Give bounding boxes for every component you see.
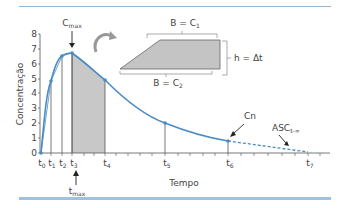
svg-text:2: 2 [31, 118, 37, 128]
trapezoid-shape [120, 40, 220, 69]
svg-text:t4: t4 [103, 158, 111, 169]
extrapolated-tail [228, 141, 308, 152]
svg-text:5: 5 [31, 74, 37, 84]
svg-text:1: 1 [31, 133, 37, 143]
svg-text:0: 0 [31, 148, 37, 158]
svg-text:t6: t6 [226, 158, 234, 169]
trapezoid-bottom-label: B = C2 [153, 78, 183, 89]
top-bracket [147, 34, 217, 38]
bottom-bracket [120, 71, 212, 74]
height-bracket [222, 41, 227, 75]
svg-text:t7: t7 [306, 158, 314, 169]
curved-arrow-head [109, 31, 117, 40]
x-axis-minor-ticks [51, 153, 320, 156]
svg-text:t5: t5 [163, 158, 171, 169]
y-axis-label: Concentração [15, 62, 25, 125]
trapezoid-height-label: h = Δt [234, 53, 263, 63]
x-tick-labels: t0 t1 t2 t3 t4 t5 t6 t7 [38, 158, 314, 169]
tmax-arrow-head [73, 170, 79, 176]
asc-label: ASCt-∞ [272, 123, 300, 134]
svg-text:8: 8 [31, 29, 37, 39]
svg-text:t1: t1 [48, 158, 56, 169]
y-tick-labels: 0 1 2 3 4 5 6 7 8 [31, 29, 37, 158]
svg-text:7: 7 [31, 44, 37, 54]
trapezoid-top-label: B = C1 [170, 18, 200, 29]
svg-text:t0: t0 [38, 158, 46, 169]
auc-shaded-area [72, 53, 105, 153]
svg-text:4: 4 [31, 88, 37, 98]
x-axis-label: Tempo [168, 178, 199, 188]
svg-text:6: 6 [31, 59, 37, 69]
cn-arrow [233, 124, 244, 134]
svg-text:t3: t3 [70, 158, 78, 169]
cmax-label: Cmax [62, 18, 82, 29]
bottom-divider [19, 197, 331, 200]
cmax-arrow-head [69, 43, 75, 48]
concentration-time-plot: 0 1 2 3 4 5 6 7 8 Concentração [0, 0, 344, 208]
pharmacokinetic-diagram: 0 1 2 3 4 5 6 7 8 Concentração [0, 0, 344, 208]
asc-arrow [279, 135, 286, 143]
tmax-label: tmax [69, 186, 86, 197]
cn-label: Cn [244, 111, 256, 121]
svg-text:t2: t2 [59, 158, 67, 169]
svg-text:3: 3 [31, 103, 37, 113]
